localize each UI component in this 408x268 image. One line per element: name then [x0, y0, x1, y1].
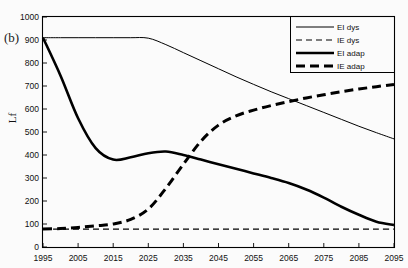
y-tick-label: 900 — [25, 35, 39, 45]
y-tick-label: 1000 — [20, 12, 39, 22]
legend-label-2: EI adap — [337, 49, 365, 58]
legend-label-3: IE adap — [337, 62, 365, 71]
legend-label-0: EI dys — [337, 23, 359, 32]
x-tick-label: 2035 — [174, 253, 193, 263]
x-tick-label: 2055 — [244, 253, 263, 263]
y-tick-label: 100 — [25, 219, 39, 229]
x-tick-label: 2095 — [385, 253, 404, 263]
y-tick-label: 0 — [34, 242, 39, 252]
chart-canvas: 01002003004005006007008009001000 1995200… — [0, 0, 408, 268]
y-axis-tick-labels: 01002003004005006007008009001000 — [20, 12, 39, 252]
y-tick-label: 500 — [25, 127, 39, 137]
y-tick-label: 800 — [25, 58, 39, 68]
x-axis-tick-labels: 1995200520152025203520452055206520752085… — [34, 253, 404, 263]
chart-legend: EI dysIE dysEI adapIE adap — [291, 17, 395, 73]
x-tick-label: 2005 — [69, 253, 88, 263]
x-tick-label: 2085 — [349, 253, 368, 263]
y-tick-label: 200 — [25, 196, 39, 206]
x-tick-label: 2065 — [279, 253, 298, 263]
y-tick-label: 400 — [25, 150, 39, 160]
figure-panel-b: (b) Lf 01002003004005006007008009001000 … — [0, 0, 408, 268]
legend-label-1: IE dys — [337, 36, 359, 45]
x-tick-label: 2025 — [139, 253, 158, 263]
y-tick-label: 700 — [25, 81, 39, 91]
x-tick-label: 2015 — [104, 253, 123, 263]
x-tick-label: 2045 — [209, 253, 228, 263]
y-tick-label: 300 — [25, 173, 39, 183]
y-tick-label: 600 — [25, 104, 39, 114]
x-tick-label: 1995 — [34, 253, 53, 263]
x-tick-label: 2075 — [314, 253, 333, 263]
